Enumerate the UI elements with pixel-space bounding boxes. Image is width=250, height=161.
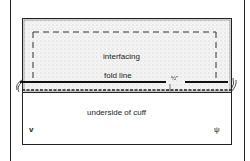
cuff-diagram <box>0 0 250 161</box>
right-mark: ψ <box>214 125 220 134</box>
interfacing-label: interfacing <box>103 52 140 61</box>
underside-label: underside of cuff <box>87 108 146 117</box>
left-mark: v <box>29 125 33 134</box>
measurement-label: ½" <box>171 75 178 81</box>
fold-line-label: fold line <box>104 71 132 80</box>
